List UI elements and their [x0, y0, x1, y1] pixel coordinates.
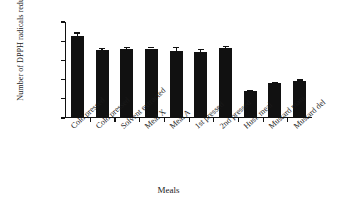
x-axis-tick: [263, 118, 264, 122]
error-bar-cap: [247, 90, 253, 91]
error-bar-cap: [223, 46, 229, 47]
error-bar-cap: [272, 82, 278, 83]
bar: [71, 36, 84, 118]
x-axis-tick: [90, 118, 91, 122]
error-bar-cap: [297, 79, 303, 80]
x-axis-title: Meals: [0, 185, 337, 195]
x-axis-tick: [139, 118, 140, 122]
error-bar-cap: [198, 49, 204, 50]
error-bar-cap: [124, 47, 130, 48]
y-axis-tick: [61, 98, 65, 99]
error-bar-cap: [148, 47, 154, 48]
y-axis-tick: [61, 79, 65, 80]
y-axis-tick: [61, 60, 65, 61]
x-axis-tick: [189, 118, 190, 122]
error-bar-cap: [74, 32, 80, 33]
y-axis-tick: [61, 117, 65, 118]
error-bar-cap: [99, 48, 105, 49]
x-axis-tick: [213, 118, 214, 122]
bar: [194, 52, 207, 118]
bar: [170, 51, 183, 118]
x-axis-tick: [238, 118, 239, 122]
y-axis-title-text: Number of DPPH radicals reduced (10: [16, 0, 26, 101]
y-axis-tick: [61, 41, 65, 42]
x-axis-tick: [164, 118, 165, 122]
y-axis-line: [65, 22, 66, 118]
y-axis-tick: [61, 21, 65, 22]
y-axis-title: Number of DPPH radicals reduced (1018): [8, 0, 34, 103]
x-axis-tick: [114, 118, 115, 122]
x-axis-tick: [287, 118, 288, 122]
chart-figure: Number of DPPH radicals reduced (1018) 2…: [0, 0, 337, 207]
error-bar-cap: [173, 47, 179, 48]
